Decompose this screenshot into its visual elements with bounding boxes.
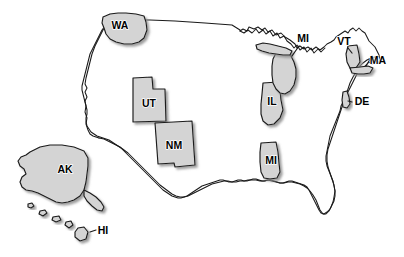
state-label-wa: WA [112, 19, 129, 31]
state-shape-hi[interactable] [28, 203, 88, 241]
state-label-nm: NM [166, 139, 183, 151]
state-label-ma: MA [370, 54, 387, 66]
state-label-mi-mississippi: MI [265, 154, 277, 166]
state-shape-ak-panhandle[interactable] [84, 190, 104, 211]
state-label-hi: HI [98, 224, 109, 236]
state-shape-ma[interactable] [350, 66, 373, 74]
coastline-detail [85, 23, 380, 214]
state-shape-de[interactable] [342, 91, 350, 108]
us-map-svg: WA UT NM AK HI MI IL MI VT MA DE [0, 0, 404, 257]
state-label-il: IL [267, 95, 277, 107]
state-label-ak: AK [57, 163, 73, 175]
state-label-de: DE [355, 95, 370, 107]
leader-line-hi [90, 230, 96, 232]
state-label-mi-michigan: MI [297, 32, 309, 44]
state-shape-mi-lower[interactable] [272, 50, 296, 94]
us-map-figure: WA UT NM AK HI MI IL MI VT MA DE [0, 0, 404, 257]
state-shape-mi-upper[interactable] [256, 43, 292, 55]
state-label-vt: VT [337, 35, 351, 47]
state-label-ut: UT [142, 97, 157, 109]
contiguous-us-outline [82, 20, 380, 214]
state-shape-ak[interactable] [18, 145, 88, 203]
